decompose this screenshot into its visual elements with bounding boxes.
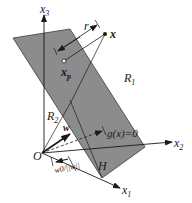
hyperplane-h-label: H [97, 159, 108, 173]
offset-tick [51, 157, 53, 166]
hyperplane-equation-label: g(x)=0 [107, 127, 138, 140]
r-tick-top [95, 20, 100, 28]
region-r2-label: R2 [46, 109, 58, 125]
x2-axis-label: x2 [173, 136, 183, 152]
region-r1-label: R1 [123, 71, 135, 87]
offset-label: w0/||w|| [54, 161, 81, 175]
x1-axis-label: x1 [121, 183, 131, 199]
distance-r-label: r [84, 19, 89, 33]
weight-vector-label: w [63, 122, 70, 133]
weight-vector-arrow [42, 134, 70, 153]
point-x [103, 32, 107, 36]
hyperplane-diagram: x3 x2 x1 x xp r R1 R2 w g(x)=0 H O w0/||… [0, 0, 192, 203]
point-xp [62, 59, 66, 63]
x3-axis-label: x3 [39, 2, 49, 18]
origin-label: O [33, 149, 42, 163]
point-x-label: x [109, 27, 116, 41]
